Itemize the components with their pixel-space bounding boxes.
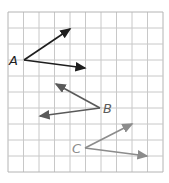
ray-arrow: [56, 84, 100, 108]
vertex-label: A: [8, 53, 18, 68]
vertex-label: B: [103, 101, 112, 116]
ray-arrow: [85, 124, 132, 148]
angle-a: A: [8, 29, 85, 68]
vertex-label: C: [72, 141, 82, 156]
angle-diagram: ABC: [0, 0, 169, 183]
